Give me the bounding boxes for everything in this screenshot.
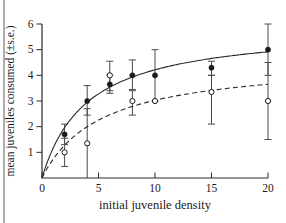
- x-tick-label: 10: [149, 182, 161, 194]
- data-point-filled-circle: [85, 98, 90, 103]
- x-tick-label: 5: [96, 182, 102, 194]
- data-point-open-circle: [209, 89, 214, 94]
- data-point-filled-circle: [209, 65, 214, 70]
- y-tick-label: 4: [28, 69, 34, 81]
- data-point-filled-circle: [62, 132, 67, 137]
- y-tick-label: 2: [28, 120, 34, 132]
- data-point-filled-circle: [152, 73, 157, 78]
- y-tick-label: 5: [28, 43, 34, 55]
- x-axis-title: initial juvenile density: [99, 198, 212, 212]
- x-tick-label: 15: [206, 182, 218, 194]
- scatter-chart: 12345605101520initial juvenile densityme…: [0, 0, 286, 223]
- y-tick-label: 6: [28, 18, 34, 30]
- data-point-open-circle: [265, 98, 270, 103]
- y-axis-title: mean juveniles consumed (±s.e.): [4, 25, 17, 176]
- x-tick-label: 0: [39, 182, 45, 194]
- x-tick-label: 20: [262, 182, 274, 194]
- y-tick-label: 3: [28, 95, 34, 107]
- data-point-filled-circle: [107, 82, 112, 87]
- data-point-filled-circle: [265, 47, 270, 52]
- data-point-open-circle: [85, 141, 90, 146]
- data-point-open-circle: [107, 73, 112, 78]
- data-point-open-circle: [130, 98, 135, 103]
- figure-panel: 12345605101520initial juvenile densityme…: [0, 0, 286, 223]
- y-tick-label: 1: [28, 146, 34, 158]
- data-point-open-circle: [62, 150, 67, 155]
- data-point-open-circle: [152, 98, 157, 103]
- data-point-filled-circle: [130, 73, 135, 78]
